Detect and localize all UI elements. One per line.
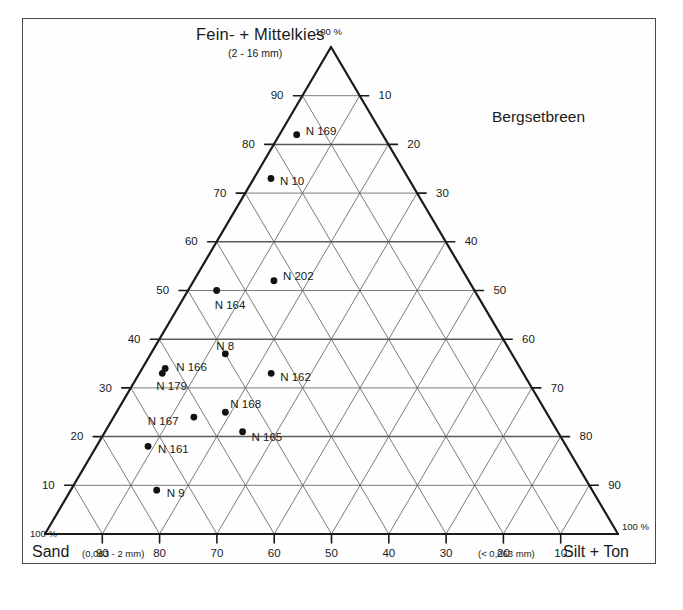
tick-sand-70-label: 70 <box>211 547 224 559</box>
data-point[interactable] <box>213 287 220 294</box>
tick-gravel-90-label: 90 <box>271 89 284 101</box>
grid-line-silt-30 <box>217 193 417 534</box>
tick-silt-50-label: 50 <box>493 284 506 296</box>
data-point[interactable] <box>271 277 278 284</box>
chart-title: Bergsetbreen <box>492 108 585 126</box>
apex-axis-sublabel: (2 - 16 mm) <box>228 47 282 59</box>
tick-gravel-80-label: 80 <box>242 138 255 150</box>
bottom-right-corner-value: 100 % <box>622 521 649 532</box>
grid-line-silt-50 <box>332 291 475 535</box>
ternary-diagram: 9080706050403020101020304050607080909080… <box>0 0 683 610</box>
grid-line-sand-50 <box>188 291 332 535</box>
grid-line-sand-30 <box>245 193 446 534</box>
grid-line-sand-10 <box>302 96 560 534</box>
tick-gravel-50-label: 50 <box>156 284 169 296</box>
tick-gravel-70-label: 70 <box>214 187 227 199</box>
tick-sand-30-label: 30 <box>440 547 453 559</box>
tick-gravel-30-label: 30 <box>99 382 112 394</box>
tick-silt-30-label: 30 <box>436 187 449 199</box>
tick-sand-50-label: 50 <box>325 547 338 559</box>
right-axis-sublabel: (< 0,063 mm) <box>478 548 535 559</box>
data-point[interactable] <box>268 370 275 377</box>
grid-line-sand-70 <box>131 388 217 534</box>
data-point[interactable] <box>268 175 275 182</box>
tick-silt-70-label: 70 <box>551 382 564 394</box>
data-point-label: N 9 <box>167 487 185 499</box>
tick-sand-80-label: 80 <box>153 547 166 559</box>
data-point-label: N 202 <box>283 270 314 282</box>
left-axis-label: Sand <box>32 543 69 561</box>
data-point-label: N 165 <box>252 431 283 443</box>
tick-sand-40-label: 40 <box>382 547 395 559</box>
data-point[interactable] <box>293 131 300 138</box>
tick-gravel-40-label: 40 <box>128 333 141 345</box>
data-point-label: N 179 <box>156 380 187 392</box>
tick-silt-60-label: 60 <box>522 333 535 345</box>
data-point[interactable] <box>145 443 152 450</box>
right-axis-label: Silt + Ton <box>563 543 629 561</box>
tick-gravel-20-label: 20 <box>71 430 84 442</box>
grid-line-silt-10 <box>102 96 359 534</box>
data-point[interactable] <box>222 409 229 416</box>
grid-line-sand-90 <box>74 485 103 534</box>
data-point-label: N 167 <box>148 415 179 427</box>
data-point-label: N 166 <box>176 361 207 373</box>
data-point[interactable] <box>159 370 166 377</box>
data-point-label: N 168 <box>230 398 261 410</box>
bottom-left-corner-value: 100 % <box>30 528 57 539</box>
tick-silt-10-label: 10 <box>379 89 392 101</box>
tick-gravel-10-label: 10 <box>42 479 55 491</box>
data-point[interactable] <box>190 414 197 421</box>
data-point[interactable] <box>239 428 246 435</box>
tick-sand-60-label: 60 <box>268 547 281 559</box>
tick-silt-40-label: 40 <box>465 235 478 247</box>
data-point-label: N 161 <box>158 443 189 455</box>
data-point-label: N 164 <box>215 299 246 311</box>
tick-gravel-60-label: 60 <box>185 235 198 247</box>
data-point-label: N 8 <box>216 340 234 352</box>
data-point-label: N 162 <box>280 371 311 383</box>
data-point-label: N 10 <box>280 175 304 187</box>
data-point[interactable] <box>153 487 160 494</box>
data-point-label: N 169 <box>306 125 337 137</box>
left-axis-sublabel: (0,063 - 2 mm) <box>82 548 144 559</box>
grid-line-silt-70 <box>446 388 532 534</box>
tick-silt-80-label: 80 <box>580 430 593 442</box>
apex-corner-value: 100 % <box>315 26 342 37</box>
tick-silt-20-label: 20 <box>407 138 420 150</box>
apex-axis-label: Fein- + Mittelkies <box>196 25 325 44</box>
tick-silt-90-label: 90 <box>608 479 621 491</box>
grid-line-silt-90 <box>561 485 590 534</box>
